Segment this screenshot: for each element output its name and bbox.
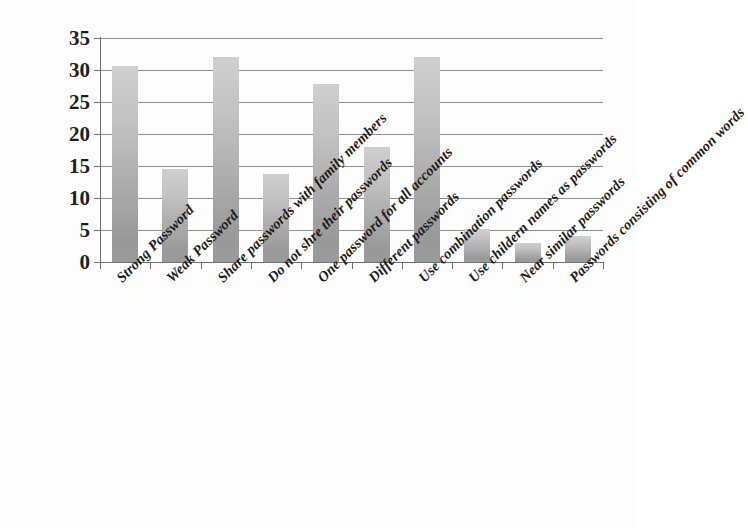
x-axis-label-6: Different passwords [365,188,463,286]
x-tick-mark-3 [251,262,252,269]
x-tick-mark-2 [201,262,202,269]
y-tick-mark-35 [94,38,100,39]
x-tick-mark-6 [402,262,403,269]
x-tick-mark-8 [502,262,503,269]
y-tick-mark-30 [94,70,100,71]
y-tick-mark-15 [94,166,100,167]
x-tick-mark-origin [100,262,101,269]
y-tick-mark-10 [94,198,100,199]
x-tick-mark-1 [150,262,151,269]
x-tick-mark-5 [352,262,353,269]
x-tick-mark-9 [553,262,554,269]
x-tick-mark-4 [301,262,302,269]
y-tick-mark-20 [94,134,100,135]
x-tick-mark-10 [603,262,604,269]
y-tick-mark-25 [94,102,100,103]
y-tick-mark-5 [94,230,100,231]
x-tick-mark-7 [452,262,453,269]
